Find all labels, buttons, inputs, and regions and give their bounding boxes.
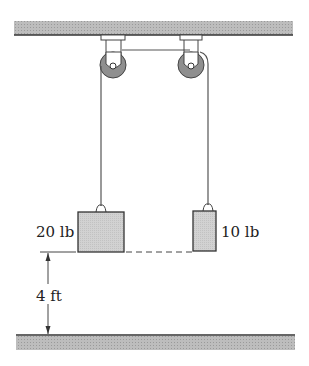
pulley-right [178, 35, 204, 78]
pulley-left [100, 35, 126, 78]
block-20lb [78, 205, 124, 252]
rope-right [200, 52, 208, 205]
block-10lb-label: 10 lb [221, 223, 259, 241]
ceiling-support [14, 21, 293, 35]
block-20lb-label: 20 lb [36, 223, 74, 241]
block-10lb [193, 204, 216, 251]
pulley-diagram: 20 lb 10 lb 4 ft [0, 0, 309, 366]
ground-support [16, 335, 295, 350]
dimension-label: 4 ft [36, 287, 62, 305]
